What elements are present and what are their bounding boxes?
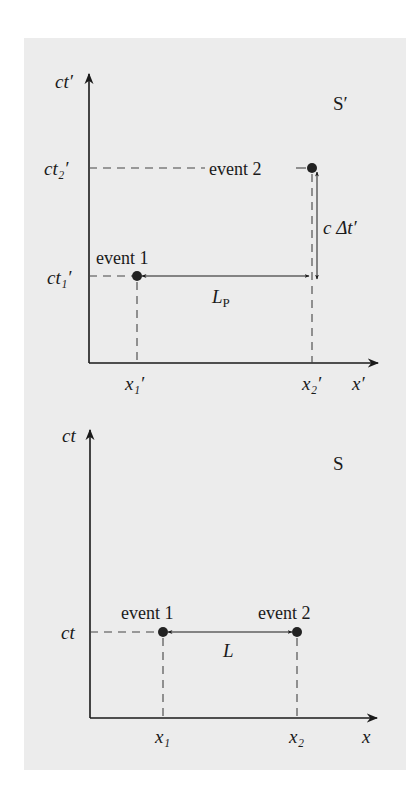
top-event-2-label: event 2 <box>209 159 261 179</box>
bottom-y-axis-label: ct <box>62 425 76 446</box>
bottom-x-tick-x2: x₂ <box>288 726 304 747</box>
bottom-diagram: ct S ct event 1 event 2 L x₁ x₂ x <box>61 425 377 747</box>
top-event-2-dot <box>307 163 317 173</box>
top-lp-sub: P <box>223 295 230 310</box>
top-y-tick-ct1: ct₁′ <box>47 267 72 288</box>
bottom-event-1-dot <box>158 627 168 637</box>
top-event-1-label: event 1 <box>96 248 148 268</box>
top-diagram: ct′ S′ ct₂′ ct₁′ event 2 event 1 LP c Δt… <box>44 71 378 394</box>
bottom-l-label: L <box>222 640 234 661</box>
top-y-tick-ct2: ct₂′ <box>44 158 69 179</box>
top-event-1-dot <box>132 271 142 281</box>
bottom-event-1-label: event 1 <box>121 603 173 623</box>
top-x-axis-label: x′ <box>351 373 365 394</box>
top-x-tick-x2: x₂′ <box>301 373 322 394</box>
top-x-tick-x1: x₁′ <box>124 373 145 394</box>
spacetime-diagram-svg: ct′ S′ ct₂′ ct₁′ event 2 event 1 LP c Δt… <box>0 0 414 790</box>
bottom-frame-label: S <box>333 453 344 474</box>
top-lp-main: L <box>211 286 223 307</box>
bottom-y-tick-ct: ct <box>61 622 75 643</box>
bottom-event-2-label: event 2 <box>258 603 310 623</box>
top-lp-label: LP <box>211 286 230 310</box>
bottom-event-2-dot <box>292 627 302 637</box>
top-frame-label: S′ <box>333 93 348 114</box>
top-y-axis-label: ct′ <box>55 71 74 92</box>
bottom-x-tick-x1: x₁ <box>154 726 170 747</box>
bottom-x-axis-label: x <box>361 726 371 747</box>
top-cdt-label: c Δt′ <box>323 217 358 238</box>
